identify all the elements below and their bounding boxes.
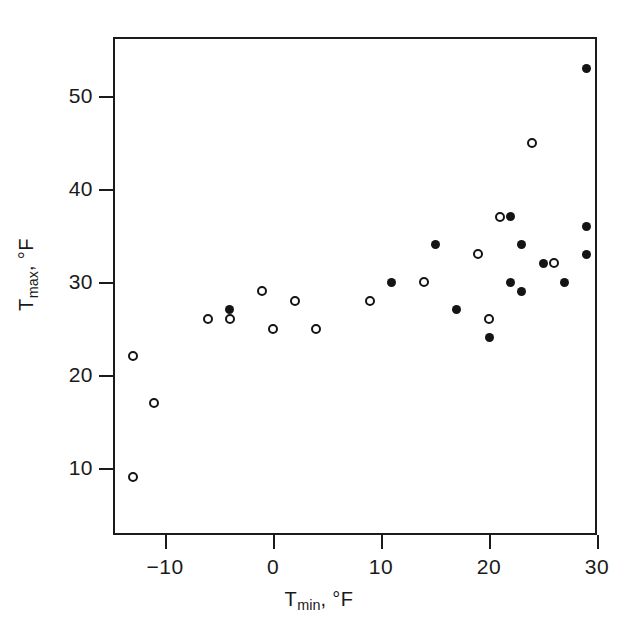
- data-point-open: [473, 249, 483, 259]
- data-point-filled: [485, 333, 494, 342]
- scatter-plot-figure: 1020304050 −100102030 Tmin, °F Tmax, °F: [0, 0, 638, 637]
- data-point-open: [527, 138, 537, 148]
- x-axis-title-subscript: min: [297, 597, 320, 613]
- x-tick-mark: [381, 535, 383, 549]
- data-point-filled: [582, 250, 591, 259]
- data-point-open: [495, 212, 505, 222]
- y-tick-mark: [99, 189, 113, 191]
- data-point-open: [290, 296, 300, 306]
- x-axis-title-main: T: [285, 588, 298, 610]
- x-tick-mark: [597, 535, 599, 549]
- x-tick-mark: [165, 535, 167, 549]
- y-tick-mark: [99, 96, 113, 98]
- x-axis-title-units: , °F: [320, 588, 353, 610]
- x-tick-label: −10: [130, 556, 200, 577]
- data-point-filled: [582, 64, 591, 73]
- data-point-open: [268, 324, 278, 334]
- data-point-open: [311, 324, 321, 334]
- data-point-filled: [517, 240, 526, 249]
- y-axis-title-subscript: max: [25, 271, 41, 298]
- y-axis-title-units: , °F: [15, 238, 37, 271]
- data-point-open: [419, 277, 429, 287]
- y-tick-label: 50: [33, 85, 93, 106]
- data-point-filled: [387, 278, 396, 287]
- data-point-filled: [539, 259, 548, 268]
- x-tick-label: 10: [346, 556, 416, 577]
- y-tick-mark: [99, 375, 113, 377]
- data-point-open: [203, 314, 213, 324]
- data-point-filled: [582, 222, 591, 231]
- data-point-open: [225, 314, 235, 324]
- data-point-filled: [225, 305, 234, 314]
- data-point-open: [484, 314, 494, 324]
- data-point-filled: [431, 240, 440, 249]
- data-point-filled: [517, 287, 526, 296]
- data-point-open: [128, 351, 138, 361]
- data-point-filled: [560, 278, 569, 287]
- x-tick-label: 30: [562, 556, 632, 577]
- data-point-open: [365, 296, 375, 306]
- y-tick-mark: [99, 282, 113, 284]
- y-tick-mark: [99, 468, 113, 470]
- data-point-open: [549, 258, 559, 268]
- data-point-filled: [506, 278, 515, 287]
- data-point-open: [128, 472, 138, 482]
- y-tick-label: 10: [33, 457, 93, 478]
- y-tick-label: 20: [33, 364, 93, 385]
- y-tick-label: 40: [33, 178, 93, 199]
- x-tick-mark: [273, 535, 275, 549]
- x-tick-mark: [489, 535, 491, 549]
- plot-data-area: [113, 37, 597, 535]
- y-tick-label: 30: [33, 271, 93, 292]
- x-tick-label: 0: [238, 556, 308, 577]
- x-axis-title: Tmin, °F: [0, 588, 638, 613]
- x-tick-label: 20: [454, 556, 524, 577]
- data-point-open: [149, 398, 159, 408]
- y-axis-title-main: T: [15, 298, 37, 311]
- data-point-open: [257, 286, 267, 296]
- data-point-filled: [452, 305, 461, 314]
- y-axis-title: Tmax, °F: [15, 155, 40, 395]
- data-point-filled: [506, 212, 515, 221]
